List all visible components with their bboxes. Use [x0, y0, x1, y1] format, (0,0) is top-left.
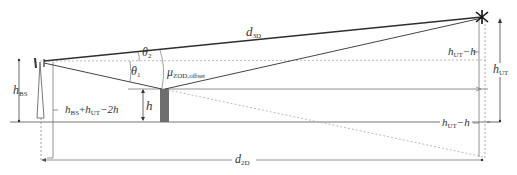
label-d3d: d3D	[246, 25, 261, 40]
label-hut: hUT	[493, 63, 508, 77]
label-sum-expression: hBS+hUT−2h	[65, 104, 119, 117]
mirror-dashed-ray	[168, 90, 484, 157]
bs-height-dashed-line	[40, 60, 488, 61]
bs-tower-icon	[37, 62, 44, 118]
label-hbs: hBS	[13, 84, 28, 98]
label-theta1: θ1	[131, 65, 140, 79]
label-hut-minus-h-bottom: hUT−h	[440, 117, 472, 130]
label-h: h	[146, 99, 153, 112]
label-d2d: d2D	[235, 153, 250, 167]
building-to-ut-ray	[165, 18, 482, 89]
mu-arc	[160, 50, 164, 88]
theta2-arc	[138, 52, 139, 61]
label-hut-minus-h-top: hUT−h	[448, 46, 476, 59]
d3d-line	[44, 17, 482, 61]
bs-to-building-ray	[44, 63, 162, 89]
bs-antenna-icon	[35, 58, 36, 68]
label-theta2: θ2	[142, 46, 151, 60]
label-mu-zod-offset: μZOD,offset	[167, 66, 205, 80]
building	[160, 89, 169, 122]
